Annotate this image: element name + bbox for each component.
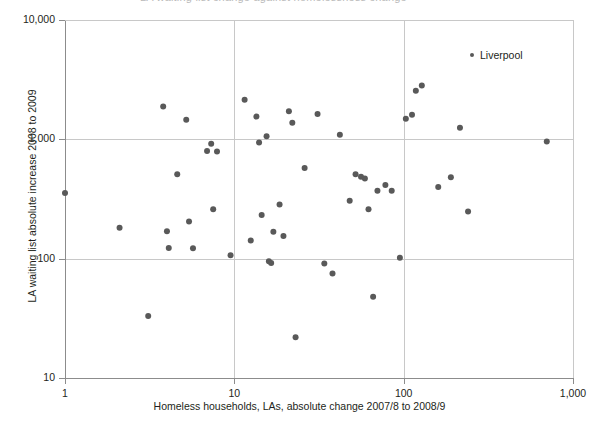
data-point: [315, 111, 321, 117]
data-point: [347, 198, 353, 204]
data-point: [302, 165, 308, 171]
data-point: [321, 261, 327, 267]
data-point: [374, 188, 380, 194]
data-point: [409, 112, 415, 118]
dot-marker-icon: [470, 53, 474, 57]
data-point: [62, 190, 68, 196]
scatter-chart: LA waiting list change against homelessn…: [0, 0, 599, 425]
axis-lines: [65, 20, 574, 379]
data-point: [403, 116, 409, 122]
data-point: [186, 218, 192, 224]
data-points: [62, 83, 550, 341]
data-point: [160, 104, 166, 110]
data-point: [362, 175, 368, 181]
data-point: [293, 334, 299, 340]
data-point: [190, 245, 196, 251]
data-point: [382, 182, 388, 188]
x-tick-label: 10: [194, 387, 274, 399]
data-point: [208, 141, 214, 147]
data-point: [448, 174, 454, 180]
data-point: [277, 201, 283, 207]
data-point: [389, 188, 395, 194]
data-point: [228, 252, 234, 258]
data-point: [330, 271, 336, 277]
data-point: [204, 148, 210, 154]
data-point: [337, 132, 343, 138]
data-point: [457, 125, 463, 131]
data-point: [268, 260, 274, 266]
data-point: [183, 117, 189, 123]
data-point: [117, 225, 123, 231]
data-point: [465, 209, 471, 215]
data-point: [419, 83, 425, 89]
data-point: [413, 88, 419, 94]
data-point: [253, 114, 259, 120]
data-point: [289, 120, 295, 126]
x-tick-label: 1,000: [533, 387, 599, 399]
data-point: [242, 97, 248, 103]
data-point: [370, 294, 376, 300]
data-point: [210, 206, 216, 212]
data-point: [248, 237, 254, 243]
x-tick-label: 1: [25, 387, 105, 399]
data-point: [174, 171, 180, 177]
y-axis-title: LA waiting list absolute increase 2008 t…: [26, 16, 38, 376]
gridlines: [65, 20, 574, 378]
data-point: [145, 313, 151, 319]
legend-label: Liverpool: [480, 49, 523, 61]
data-point: [397, 255, 403, 261]
data-point: [286, 108, 292, 114]
data-point: [353, 171, 359, 177]
legend: Liverpool: [470, 48, 523, 61]
data-point: [280, 233, 286, 239]
data-point: [164, 228, 170, 234]
data-point: [256, 140, 262, 146]
plot-canvas: [0, 0, 599, 425]
data-point: [214, 149, 220, 155]
data-point: [544, 138, 550, 144]
data-point: [435, 184, 441, 190]
data-point: [259, 212, 265, 218]
data-point: [166, 245, 172, 251]
x-axis-title: Homeless households, LAs, absolute chang…: [0, 400, 599, 412]
data-point: [366, 206, 372, 212]
data-point: [264, 133, 270, 139]
tick-marks: [59, 21, 574, 385]
data-point: [270, 229, 276, 235]
x-tick-label: 100: [364, 387, 444, 399]
